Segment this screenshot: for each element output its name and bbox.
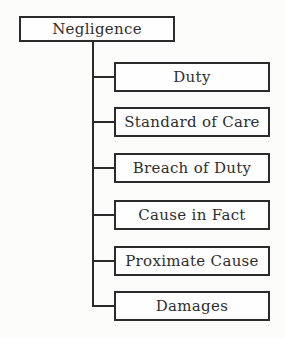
node-cause-in-fact-label: Cause in Fact	[138, 208, 245, 223]
branch-line-damages	[92, 305, 114, 307]
node-proximate-cause-label: Proximate Cause	[125, 254, 259, 269]
branch-line-standard-of-care	[92, 121, 114, 123]
branch-line-breach-of-duty	[92, 167, 114, 169]
node-standard-of-care-label: Standard of Care	[124, 115, 260, 130]
branch-line-proximate-cause	[92, 260, 114, 262]
trunk-connector-line	[92, 42, 94, 307]
node-damages: Damages	[114, 291, 270, 321]
node-duty: Duty	[114, 62, 270, 92]
node-proximate-cause: Proximate Cause	[114, 246, 270, 276]
node-breach-of-duty: Breach of Duty	[114, 153, 270, 183]
node-cause-in-fact: Cause in Fact	[114, 200, 270, 230]
node-duty-label: Duty	[173, 70, 210, 85]
node-negligence-label: Negligence	[52, 22, 142, 37]
branch-line-duty	[92, 76, 114, 78]
node-standard-of-care: Standard of Care	[114, 107, 270, 137]
node-negligence: Negligence	[19, 16, 175, 42]
branch-line-cause-in-fact	[92, 214, 114, 216]
negligence-flowchart: Negligence Duty Standard of Care Breach …	[0, 0, 285, 338]
node-damages-label: Damages	[156, 299, 228, 314]
node-breach-of-duty-label: Breach of Duty	[133, 161, 252, 176]
